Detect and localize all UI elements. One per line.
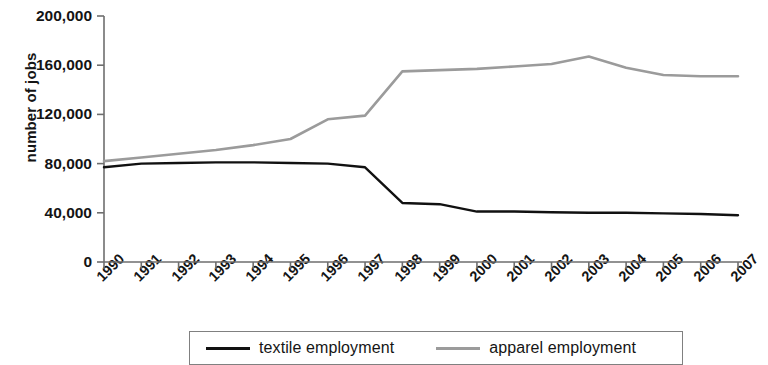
series-line-textile — [104, 162, 738, 215]
legend-label-textile: textile employment — [259, 339, 394, 357]
chart-legend: textile employment apparel employment — [189, 331, 683, 365]
legend-label-apparel: apparel employment — [489, 339, 636, 357]
legend-swatch-textile-icon — [206, 347, 250, 350]
legend-entry-apparel: apparel employment — [436, 339, 636, 357]
legend-swatch-apparel-icon — [436, 347, 480, 350]
legend-entry-textile: textile employment — [206, 339, 394, 357]
series-line-apparel — [104, 57, 738, 162]
